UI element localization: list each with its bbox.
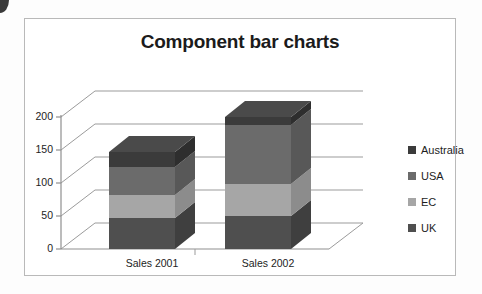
gridline-150-depth [61,124,95,150]
axis-tick-group [56,117,61,249]
floor-right-edge [329,223,363,249]
screenshot-page: Component bar charts [0,0,482,294]
legend-swatch-ec-icon [408,198,416,206]
legend-item-uk[interactable]: UK [408,216,482,240]
legend-item-ec[interactable]: EC [408,190,482,214]
ytick-label-50: 50 [25,209,53,221]
ytick-label-150: 150 [25,143,53,155]
bar-sales-2002[interactable] [225,101,311,249]
category-label-sales-2001: Sales 2001 [102,257,202,269]
legend-label-ec: EC [421,196,436,208]
gridline-100-depth [61,157,95,183]
bar-segment-usa-2002 [225,125,291,184]
ytick-label-100: 100 [25,176,53,188]
legend-swatch-uk-icon [408,224,416,232]
legend-label-uk: UK [421,222,436,234]
bar-sales-2001[interactable] [109,136,195,249]
ytick-label-0: 0 [25,242,53,254]
category-label-sales-2002: Sales 2002 [218,257,318,269]
gridline-50-depth [61,190,95,216]
bar-segment-australia-2002 [225,117,291,125]
bar-segment-uk-2001 [109,218,175,249]
bar-segment-usa-2001 [109,167,175,195]
legend-item-usa[interactable]: USA [408,164,482,188]
bar-segment-uk-2002 [225,216,291,249]
ytick-label-200: 200 [25,110,53,122]
scan-artifact-mark [0,0,9,13]
legend-swatch-usa-icon [408,172,416,180]
bar-segment-australia-2001 [109,152,175,167]
bar-segment-ec-2001 [109,195,175,218]
gridline-group [61,91,363,249]
gridline-200-depth [61,91,95,117]
bar-segment-ec-2002 [225,184,291,216]
chart-legend: Australia USA EC UK [408,138,482,242]
legend-item-australia[interactable]: Australia [408,138,482,162]
legend-swatch-australia-icon [408,146,416,154]
gridline-0-depth [61,223,95,249]
chart-plot-area [25,19,457,277]
chart-frame: Component bar charts [24,18,456,276]
legend-label-usa: USA [421,170,444,182]
legend-label-australia: Australia [421,144,464,156]
